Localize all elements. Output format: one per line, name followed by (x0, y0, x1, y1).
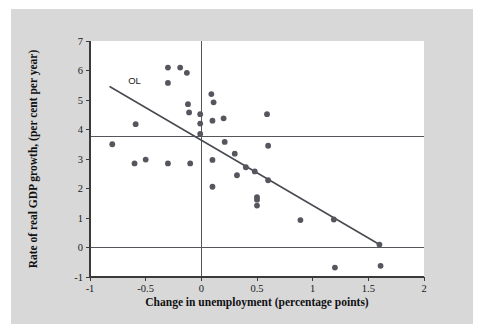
data-point (187, 161, 193, 167)
x-axis-title: Change in unemployment (percentage point… (145, 296, 369, 309)
data-point (197, 111, 203, 117)
x-tick-label: 2 (421, 283, 426, 294)
data-point (265, 143, 271, 149)
y-tick-label: 0 (78, 242, 83, 253)
data-point (243, 164, 249, 170)
data-point (133, 121, 139, 127)
data-point (264, 111, 270, 117)
data-point (177, 65, 183, 71)
scatter-chart: -1-0.500.511.52 -101234567 OL Change in … (0, 0, 484, 333)
data-point (254, 203, 260, 209)
data-point (109, 141, 115, 147)
data-point (221, 115, 227, 121)
y-tick-label: 3 (78, 154, 83, 165)
data-point (331, 217, 337, 223)
y-tick-label: 4 (78, 124, 84, 135)
data-point (210, 184, 216, 190)
x-axis-ticks: -1-0.500.511.52 (86, 277, 427, 294)
data-point (377, 242, 383, 248)
data-point (165, 161, 171, 167)
data-point (332, 265, 338, 271)
data-point (254, 197, 260, 203)
okuns-law-label: OL (128, 75, 141, 86)
data-point (211, 99, 217, 105)
data-point (234, 172, 240, 178)
data-point (265, 177, 271, 183)
y-tick-label: 5 (78, 95, 83, 106)
data-point (252, 168, 258, 174)
data-point (197, 131, 203, 137)
data-point (232, 151, 238, 157)
data-point (210, 118, 216, 124)
data-point (185, 101, 191, 107)
data-point (186, 109, 192, 115)
x-tick-label: 1.5 (362, 283, 375, 294)
data-point (208, 91, 214, 97)
x-tick-label: -1 (86, 283, 95, 294)
data-point (197, 121, 203, 127)
data-point (210, 157, 216, 163)
y-axis-ticks: -101234567 (74, 36, 90, 283)
x-tick-label: 0.5 (250, 283, 263, 294)
data-point (298, 217, 304, 223)
x-tick-label: -0.5 (137, 283, 154, 294)
x-tick-label: 1 (310, 283, 315, 294)
x-tick-label: 0 (199, 283, 204, 294)
data-point (184, 70, 190, 76)
y-axis-title: Rate of real GDP growth, (per cent per y… (27, 50, 40, 269)
data-point (165, 65, 171, 71)
y-tick-label: 7 (78, 36, 83, 47)
y-tick-label: -1 (74, 272, 83, 283)
data-point (143, 157, 149, 163)
y-tick-label: 2 (78, 183, 83, 194)
data-point (378, 263, 384, 269)
data-point (132, 161, 138, 167)
figure-root: -1-0.500.511.52 -101234567 OL Change in … (0, 0, 484, 333)
y-tick-label: 6 (78, 65, 83, 76)
data-point (165, 80, 171, 86)
y-tick-label: 1 (78, 213, 83, 224)
chart-annotations: OL (128, 75, 141, 86)
data-point (222, 139, 228, 145)
